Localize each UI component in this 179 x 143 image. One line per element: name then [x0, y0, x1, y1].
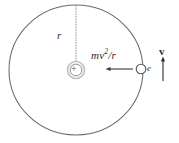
nucleus-charge-label: + [71, 64, 77, 74]
electron-circle [136, 64, 146, 74]
velocity-arrow-head [161, 57, 165, 62]
figure-canvas [0, 0, 179, 143]
bohr-atom-figure: + r mv2/r e v [0, 0, 179, 143]
force-label-prefix: mv [91, 49, 104, 61]
force-label-suffix: /r [108, 49, 116, 61]
force-arrow-head [106, 67, 111, 71]
electron-label: e [147, 64, 151, 73]
velocity-label: v [159, 46, 165, 57]
centripetal-force-label: mv2/r [91, 48, 116, 61]
radius-label: r [57, 30, 61, 41]
